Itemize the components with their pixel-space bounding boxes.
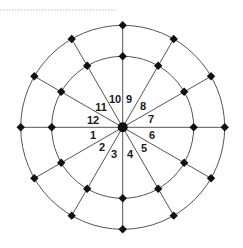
ring-diagram: 123456789101112 — [0, 0, 243, 248]
diamond-node — [83, 185, 91, 193]
spoke-label: 2 — [99, 141, 105, 153]
diamond-node — [83, 62, 91, 70]
diamond-node — [207, 72, 215, 80]
spoke-label: 10 — [109, 93, 121, 105]
diamond-node — [170, 35, 178, 43]
diamond-node — [207, 174, 215, 182]
diamond-node — [154, 62, 162, 70]
spoke-label: 7 — [148, 113, 154, 125]
spoke-label: 9 — [126, 93, 132, 105]
diamond-node — [190, 123, 198, 131]
diamond-node — [57, 159, 65, 167]
diamond-node — [17, 123, 25, 131]
diamond-node — [30, 174, 38, 182]
spoke-line — [123, 76, 211, 127]
diamond-node — [119, 21, 127, 29]
diamond-node — [170, 211, 178, 219]
spoke-label: 8 — [140, 100, 146, 112]
spoke-label: 12 — [87, 114, 99, 126]
spoke-label: 3 — [111, 148, 117, 160]
diamond-node — [119, 52, 127, 60]
spoke-line — [123, 127, 211, 178]
diamond-node — [57, 88, 65, 96]
diamond-node — [180, 159, 188, 167]
spoke-label: 11 — [95, 101, 107, 113]
diamond-node — [154, 185, 162, 193]
diamond-node — [180, 88, 188, 96]
diamond-node — [119, 225, 127, 233]
spoke-label: 1 — [90, 129, 96, 141]
spoke-label: 4 — [127, 148, 134, 160]
spoke-label: 6 — [149, 129, 155, 141]
center-hub-node — [118, 122, 128, 132]
diamond-node — [119, 194, 127, 202]
spoke-label: 5 — [141, 142, 147, 154]
diamond-node — [30, 72, 38, 80]
diamond-node — [221, 123, 229, 131]
diamond-node — [68, 35, 76, 43]
diamond-node — [68, 211, 76, 219]
diamond-node — [48, 123, 56, 131]
spoke-line — [34, 127, 122, 178]
spoke-line — [72, 127, 123, 215]
